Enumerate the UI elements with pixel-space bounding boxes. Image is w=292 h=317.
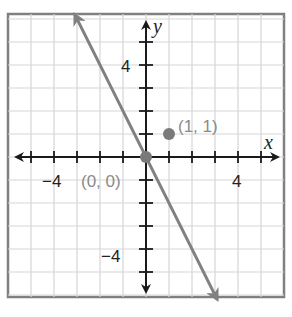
data-point — [163, 128, 175, 140]
y-tick-label-neg4: −4 — [101, 247, 120, 266]
x-tick-label-4: 4 — [232, 172, 241, 191]
y-axis-label: y — [151, 15, 162, 38]
point-label-origin: (0, 0) — [81, 172, 121, 191]
y-tick-label-4: 4 — [121, 57, 130, 76]
x-tick-label-neg4: −4 — [42, 172, 61, 191]
point-label-1-1: (1, 1) — [178, 117, 218, 136]
coordinate-plane: x y −4 4 4 −4 (0, 0) (1, 1) — [0, 0, 292, 317]
x-axis-label: x — [263, 131, 273, 153]
data-point — [140, 151, 152, 163]
